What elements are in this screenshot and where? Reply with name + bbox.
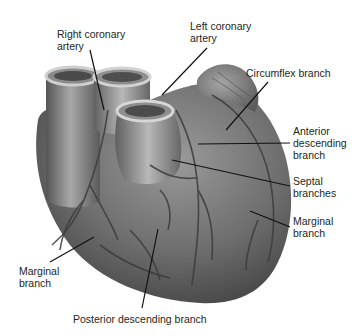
label-marginal-branch-left: Marginal branch	[19, 265, 59, 289]
label-posterior-descending-branch: Posterior descending branch	[73, 313, 207, 325]
label-anterior-descending-branch: Anterior descending branch	[293, 125, 347, 161]
label-left-coronary-artery: Left coronary artery	[190, 20, 251, 44]
label-circumflex-branch: Circumflex branch	[246, 67, 331, 79]
label-right-coronary-artery: Right coronary artery	[57, 28, 125, 52]
label-septal-branches: Septal branches	[293, 175, 336, 199]
heart-diagram: Right coronary artery Left coronary arte…	[0, 0, 364, 336]
label-marginal-branch-right: Marginal branch	[293, 215, 333, 239]
